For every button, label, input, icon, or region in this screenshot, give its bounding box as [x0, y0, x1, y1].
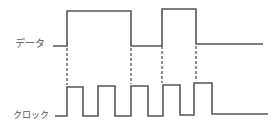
clock-waveform	[55, 83, 268, 116]
timing-diagram	[0, 0, 279, 130]
data-waveform	[53, 9, 263, 46]
dashed-guide-lines	[67, 46, 196, 85]
